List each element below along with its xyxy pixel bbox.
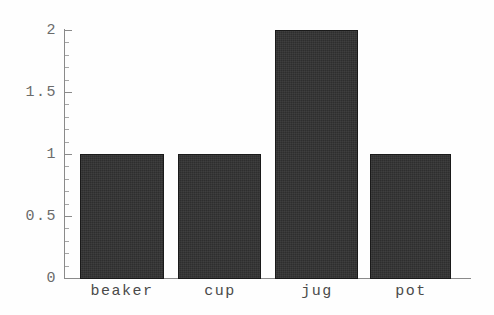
bar-cup[interactable] bbox=[178, 154, 261, 279]
y-tick-label-0: 0 bbox=[46, 271, 57, 286]
y-tick-minor-0.4 bbox=[65, 228, 69, 229]
x-tick-label-beaker: beaker bbox=[72, 283, 172, 300]
y-tick-major-2 bbox=[65, 30, 72, 31]
y-tick-minor-1.4 bbox=[65, 104, 69, 105]
y-tick-minor-0.6 bbox=[65, 204, 69, 205]
y-tick-minor-1.8 bbox=[65, 55, 69, 56]
x-tick-label-jug: jug bbox=[267, 283, 367, 300]
y-tick-major-0 bbox=[65, 278, 72, 279]
y-tick-minor-1.2 bbox=[65, 129, 69, 130]
y-tick-minor-1.6 bbox=[65, 80, 69, 81]
y-tick-major-0.5 bbox=[65, 216, 72, 217]
y-tick-major-1.5 bbox=[65, 92, 72, 93]
bar-jug[interactable] bbox=[275, 30, 358, 279]
y-tick-minor-0.9 bbox=[65, 166, 69, 167]
y-tick-label-1: 1 bbox=[46, 147, 57, 162]
y-tick-minor-0.3 bbox=[65, 241, 69, 242]
y-tick-minor-0.2 bbox=[65, 253, 69, 254]
y-tick-minor-0.7 bbox=[65, 191, 69, 192]
y-tick-label-1.5: 1.5 bbox=[25, 85, 57, 100]
x-tick-label-pot: pot bbox=[361, 283, 461, 300]
y-tick-label-0.5: 0.5 bbox=[25, 209, 57, 224]
bar-beaker[interactable] bbox=[80, 154, 164, 279]
x-tick-label-cup: cup bbox=[170, 283, 270, 300]
plot-area: 2 1.5 1 0.5 0 beaker cup jug pot bbox=[0, 0, 494, 315]
bar-chart: 2 1.5 1 0.5 0 beaker cup jug pot bbox=[0, 0, 494, 315]
y-tick-minor-0.1 bbox=[65, 266, 69, 267]
y-tick-minor-1.1 bbox=[65, 142, 69, 143]
y-tick-major-1 bbox=[65, 154, 72, 155]
y-tick-minor-1.3 bbox=[65, 117, 69, 118]
y-tick-minor-0.8 bbox=[65, 179, 69, 180]
bar-pot[interactable] bbox=[370, 154, 451, 279]
y-tick-minor-1.9 bbox=[65, 42, 69, 43]
y-tick-label-2: 2 bbox=[46, 23, 57, 38]
y-tick-minor-1.7 bbox=[65, 67, 69, 68]
